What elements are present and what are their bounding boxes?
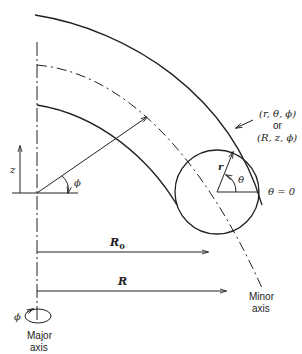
major-axis-label-line2: axis <box>30 342 48 353</box>
coord-set-1: (r, θ, ϕ) <box>259 108 296 119</box>
coord-set-2: (R, z, ϕ) <box>257 132 297 143</box>
phi-angle-arc <box>62 176 68 193</box>
r0-label: R0 <box>109 236 125 251</box>
minor-radius-arrow <box>217 152 233 192</box>
position-vector-arrow <box>37 117 147 193</box>
theta-angle-label: θ <box>238 174 244 185</box>
theta-zero-label: θ = 0 <box>268 186 296 197</box>
phi-rotation-arrowhead <box>27 309 33 312</box>
toroidal-coordinates-diagram: z ϕ (r, θ, ϕ) or (R, z, ϕ) r θ θ = 0 R0 … <box>0 0 302 354</box>
minor-axis-label-line1: Minor <box>249 291 275 302</box>
r-label: R <box>117 275 127 288</box>
minor-axis-label-line2: axis <box>252 303 270 314</box>
theta-angle-arc <box>226 175 236 192</box>
major-axis-label-line1: Major <box>27 330 53 341</box>
z-label: z <box>9 164 16 175</box>
phi-rotation-label: ϕ <box>14 311 21 322</box>
coord-or: or <box>273 120 283 131</box>
minor-radius-label: r <box>218 161 224 172</box>
inner-torus-boundary <box>37 105 177 205</box>
phi-angle-label: ϕ <box>74 177 81 188</box>
coord-callout-pointer <box>236 120 253 128</box>
